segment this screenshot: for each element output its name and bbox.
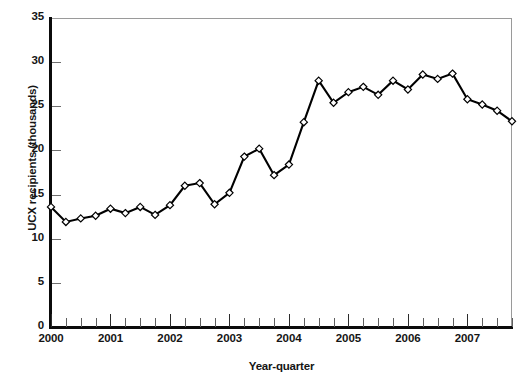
x-axis-minor-tick: [140, 318, 141, 327]
y-axis-tick-label: 0: [0, 319, 44, 331]
x-axis-minor-tick: [244, 318, 245, 327]
x-axis-minor-tick: [423, 318, 424, 327]
y-axis-tick: [52, 106, 61, 107]
x-axis-minor-tick: [66, 318, 67, 327]
x-axis-minor-tick: [155, 318, 156, 327]
y-axis-tick: [52, 239, 61, 240]
x-axis-major-tick: [110, 314, 111, 327]
x-axis-minor-tick: [319, 318, 320, 327]
x-axis-tick-label: 2002: [140, 332, 200, 344]
y-axis-title: UCX recipients (thousands): [26, 38, 38, 278]
x-axis-minor-tick: [125, 318, 126, 327]
x-axis-major-tick: [348, 314, 349, 327]
x-axis-major-tick: [408, 314, 409, 327]
y-axis-tick: [52, 195, 61, 196]
plot-area-frame: [51, 18, 512, 327]
x-axis-minor-tick: [200, 318, 201, 327]
y-axis-tick-label: 35: [0, 10, 44, 22]
x-axis-minor-tick: [215, 318, 216, 327]
x-axis-tick-label: 2005: [318, 332, 378, 344]
y-axis-tick: [52, 62, 61, 63]
x-axis-title: Year-quarter: [51, 360, 512, 372]
x-axis-minor-tick: [334, 318, 335, 327]
x-axis-minor-tick: [363, 318, 364, 327]
x-axis-minor-tick: [393, 318, 394, 327]
x-axis-line: [49, 326, 513, 329]
x-axis-minor-tick: [378, 318, 379, 327]
x-axis-minor-tick: [185, 318, 186, 327]
x-axis-major-tick: [467, 314, 468, 327]
x-axis-minor-tick: [274, 318, 275, 327]
x-axis-minor-tick: [304, 318, 305, 327]
x-axis-minor-tick: [512, 318, 513, 327]
x-axis-major-tick: [51, 314, 52, 327]
x-axis-tick-label: 2004: [259, 332, 319, 344]
x-axis-tick-label: 2001: [80, 332, 140, 344]
x-axis-tick-label: 2003: [199, 332, 259, 344]
y-axis-tick: [52, 150, 61, 151]
x-axis-major-tick: [229, 314, 230, 327]
x-axis-tick-label: 2006: [378, 332, 438, 344]
x-axis-minor-tick: [81, 318, 82, 327]
x-axis-major-tick: [170, 314, 171, 327]
y-axis-tick: [52, 283, 61, 284]
y-axis-line: [49, 17, 52, 328]
x-axis-minor-tick: [96, 318, 97, 327]
x-axis-tick-label: 2000: [21, 332, 81, 344]
x-axis-minor-tick: [497, 318, 498, 327]
x-axis-minor-tick: [259, 318, 260, 327]
x-axis-minor-tick: [482, 318, 483, 327]
x-axis-minor-tick: [438, 318, 439, 327]
x-axis-minor-tick: [453, 318, 454, 327]
x-axis-major-tick: [289, 314, 290, 327]
chart-figure: 05101520253035 2000200120022003200420052…: [0, 0, 527, 383]
x-axis-tick-label: 2007: [437, 332, 497, 344]
